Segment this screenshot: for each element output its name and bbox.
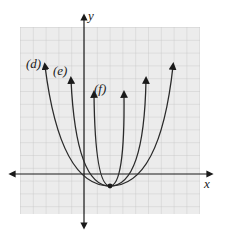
curve-label-d: (d) (26, 56, 41, 71)
y-axis-label: y (86, 8, 94, 23)
curve-label-f: (f) (94, 81, 106, 96)
curve-label-e: (e) (53, 63, 67, 78)
x-axis-label: x (203, 176, 210, 191)
parabola-graph: x y (d) (e) (f) (0, 0, 225, 234)
vertex-point (108, 184, 113, 189)
